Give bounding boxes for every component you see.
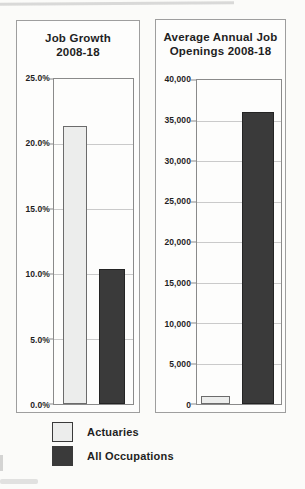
legend-label: Actuaries bbox=[87, 426, 139, 438]
bar-all-occupations-growth bbox=[99, 269, 125, 404]
scan-artifact bbox=[0, 455, 3, 471]
y-tick-label: 5.0% bbox=[17, 335, 50, 345]
job-openings-chart-panel: Average Annual Job Openings 2008-18 40,0… bbox=[155, 19, 286, 413]
axis-tick bbox=[191, 80, 196, 81]
y-tick-label: 15,000 bbox=[156, 278, 191, 288]
axis-tick bbox=[48, 209, 53, 210]
y-tick-label: 15.0% bbox=[17, 204, 50, 214]
chart-title: Job Growth 2008-18 bbox=[17, 31, 139, 59]
y-tick-label: 25.0% bbox=[17, 73, 50, 83]
scanned-chart-page: Job Growth 2008-18 25.0% 20.0% 15.0% 10.… bbox=[0, 0, 305, 489]
chart-title-line1: Job Growth bbox=[17, 31, 139, 45]
chart-title-line1: Average Annual Job bbox=[156, 30, 285, 44]
legend-swatch-actuaries bbox=[52, 422, 73, 442]
chart-title-line2: 2008-18 bbox=[17, 45, 139, 59]
scan-artifact bbox=[0, 1, 234, 6]
axis-tick bbox=[191, 323, 196, 324]
axis-tick bbox=[191, 120, 196, 121]
job-growth-chart-panel: Job Growth 2008-18 25.0% 20.0% 15.0% 10.… bbox=[16, 20, 140, 413]
y-tick-label: 5,000 bbox=[156, 359, 191, 369]
legend-label: All Occupations bbox=[87, 450, 174, 462]
scan-artifact bbox=[0, 479, 38, 484]
bar-all-occupations-openings bbox=[242, 112, 274, 404]
axis-tick bbox=[191, 363, 196, 364]
y-tick-label: 0 bbox=[156, 400, 191, 410]
y-tick-label: 10,000 bbox=[156, 319, 191, 329]
y-tick-label: 25,000 bbox=[156, 196, 191, 206]
plot-area bbox=[53, 78, 134, 405]
axis-tick bbox=[191, 282, 196, 283]
legend-swatch-all-occupations bbox=[52, 446, 73, 466]
plot-area bbox=[196, 79, 282, 405]
axis-tick bbox=[48, 144, 53, 145]
chart-title: Average Annual Job Openings 2008-18 bbox=[156, 30, 285, 58]
bar-actuaries-openings bbox=[201, 396, 230, 404]
legend: Actuaries All Occupations bbox=[52, 422, 174, 470]
axis-tick bbox=[191, 242, 196, 243]
axis-tick bbox=[48, 274, 53, 275]
legend-item-actuaries: Actuaries bbox=[52, 422, 174, 442]
y-tick-label: 10.0% bbox=[17, 269, 50, 279]
bar-actuaries-growth bbox=[63, 126, 87, 404]
y-tick-label: 40,000 bbox=[156, 74, 191, 84]
legend-item-all-occupations: All Occupations bbox=[52, 446, 174, 466]
axis-tick bbox=[48, 339, 53, 340]
y-tick-label: 35,000 bbox=[156, 115, 191, 125]
axis-tick bbox=[191, 404, 196, 405]
chart-title-line2: Openings 2008-18 bbox=[156, 44, 285, 58]
y-tick-label: 30,000 bbox=[156, 156, 191, 166]
axis-tick bbox=[48, 404, 53, 405]
y-tick-label: 20,000 bbox=[156, 237, 191, 247]
y-axis-labels: 25.0% 20.0% 15.0% 10.0% 5.0% 0.0% bbox=[17, 78, 50, 405]
y-tick-label: 0.0% bbox=[17, 400, 50, 410]
axis-tick bbox=[191, 201, 196, 202]
axis-tick bbox=[191, 161, 196, 162]
y-tick-label: 20.0% bbox=[17, 138, 50, 148]
y-axis-labels: 40,000 35,000 30,000 25,000 20,000 15,00… bbox=[156, 79, 191, 405]
axis-tick bbox=[48, 79, 53, 80]
